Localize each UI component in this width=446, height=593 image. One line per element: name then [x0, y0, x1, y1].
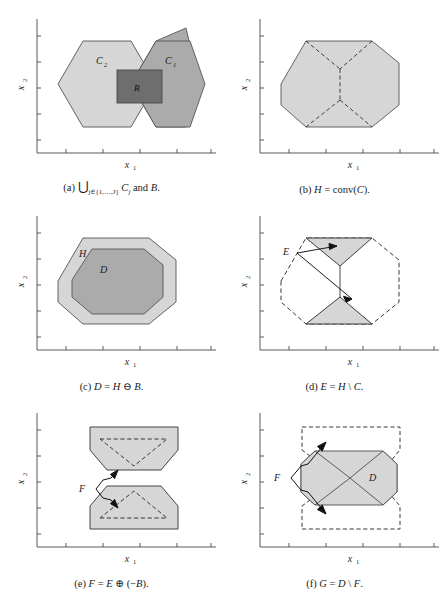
xlabel-d-sub: 1	[356, 361, 359, 367]
xlabel-a-sub: 1	[133, 164, 136, 170]
ylabel-c-sub: 2	[21, 276, 28, 279]
caption-a-conj: and	[133, 182, 148, 193]
panel-d-plot: E x 1 x 2	[223, 197, 446, 367]
caption-b-tag: (b)	[299, 184, 311, 195]
ylabel-b: x	[238, 85, 249, 91]
caption-b: (b) H = conv(C).	[223, 184, 446, 196]
panel-b: x 1 x 2 (b) H = conv(C).	[223, 0, 446, 198]
xlabel-f: x	[347, 553, 353, 564]
xlabel-d: x	[347, 356, 353, 367]
triangle-E-top	[306, 238, 372, 266]
ylabel-d-sub: 2	[244, 276, 251, 279]
caption-b-arg: C	[357, 184, 364, 195]
caption-f-tag: (f)	[306, 578, 317, 589]
ylabel-f: x	[238, 479, 249, 485]
caption-c-lhs: D	[94, 381, 102, 392]
ylabel-a-sub: 2	[21, 79, 28, 82]
caption-c: (c) D = H ⊖ B.	[0, 381, 223, 393]
label-F-f: F	[273, 472, 281, 483]
caption-a-period: .	[157, 182, 160, 193]
panel-f: F D x 1 x 2 (f) G = D \ F.	[223, 394, 446, 592]
caption-a-tag: (a)	[63, 182, 75, 193]
dilated-F-top	[90, 427, 178, 470]
xlabel-c-sub: 1	[133, 361, 136, 367]
square-B	[117, 70, 162, 103]
label-F-e: F	[78, 483, 86, 494]
panel-d: E x 1 x 2 (d) E = H \ C.	[223, 197, 446, 395]
xlabel-c: x	[124, 356, 130, 367]
ylabel-d: x	[238, 282, 249, 288]
caption-e-rhs1: E	[106, 578, 112, 589]
caption-f-eq: =	[329, 578, 335, 589]
caption-d-period: .	[361, 381, 364, 392]
caption-a-body-sub: j	[128, 188, 130, 195]
panel-c-plot: H D x 1 x 2	[0, 197, 223, 367]
xlabel-a: x	[124, 159, 130, 170]
caption-a-union-sub: j∈{1,…,J}	[89, 188, 119, 195]
caption-e-lhs: F	[89, 578, 95, 589]
caption-d-lhs: E	[320, 381, 326, 392]
panel-a: C 2 C 1 B x 1 x 2 (a) ⋃j∈{1,…,J} Cj and …	[0, 0, 223, 198]
xlabel-b: x	[347, 159, 353, 170]
caption-c-op: ⊖	[123, 381, 132, 392]
label-D-c: D	[99, 264, 108, 275]
caption-d-rhs1: H	[338, 381, 346, 392]
caption-d-eq: =	[329, 381, 335, 392]
caption-d-rhs2: C	[354, 381, 361, 392]
caption-e-open: (−	[127, 578, 136, 589]
caption-d-op: \	[348, 381, 351, 392]
panel-c: H D x 1 x 2 (c) D = H ⊖ B.	[0, 197, 223, 395]
xlabel-e-sub: 1	[133, 558, 136, 564]
xlabel-e: x	[124, 553, 130, 564]
label-H-c: H	[78, 248, 87, 259]
caption-a: (a) ⋃j∈{1,…,J} Cj and B.	[0, 180, 223, 196]
caption-e-op: ⊕	[115, 578, 124, 589]
xlabel-b-sub: 1	[356, 164, 359, 170]
ylabel-a: x	[15, 85, 26, 91]
panel-e-plot: F x 1 x 2	[0, 394, 223, 564]
triangle-E-bottom	[306, 297, 372, 324]
caption-b-lhs: H	[314, 184, 322, 195]
label-C2: C	[96, 55, 103, 66]
caption-f-lhs: G	[319, 578, 327, 589]
caption-c-eq: =	[104, 381, 110, 392]
caption-f-period: .	[360, 578, 363, 589]
ylabel-b-sub: 2	[244, 79, 251, 82]
label-C1: C	[165, 55, 172, 66]
caption-b-fn: conv(	[333, 184, 357, 195]
label-D-f: D	[368, 472, 377, 483]
caption-e-close: ).	[143, 578, 149, 589]
label-E-d: E	[282, 246, 289, 257]
figure-container: C 2 C 1 B x 1 x 2 (a) ⋃j∈{1,…,J} Cj and …	[0, 0, 446, 593]
caption-d-tag: (d)	[306, 381, 318, 392]
panel-b-plot: x 1 x 2	[223, 0, 446, 170]
ylabel-e-sub: 2	[21, 473, 28, 476]
caption-a-union-symbol: ⋃	[78, 179, 89, 194]
panel-e: F x 1 x 2 (e) F = E ⊕ (−B).	[0, 394, 223, 592]
caption-c-period: .	[141, 381, 144, 392]
ylabel-f-sub: 2	[244, 473, 251, 476]
caption-f: (f) G = D \ F.	[223, 578, 446, 590]
caption-c-tag: (c)	[80, 381, 92, 392]
caption-c-rhs1: H	[113, 381, 121, 392]
panel-f-plot: F D x 1 x 2	[223, 394, 446, 564]
label-C1-sub: 1	[173, 61, 176, 68]
caption-e-tag: (e)	[74, 578, 86, 589]
caption-e-eq: =	[98, 578, 104, 589]
ylabel-e: x	[15, 479, 26, 485]
caption-e: (e) F = E ⊕ (−B).	[0, 578, 223, 590]
xlabel-f-sub: 1	[356, 558, 359, 564]
caption-f-rhs1: D	[338, 578, 346, 589]
caption-b-eq: =	[324, 184, 330, 195]
dilated-F-bottom	[90, 486, 178, 529]
ylabel-c: x	[15, 282, 26, 288]
caption-f-op: \	[348, 578, 351, 589]
label-B: B	[134, 83, 140, 93]
axis-lines	[260, 216, 439, 350]
caption-b-close: ).	[364, 184, 370, 195]
caption-d: (d) E = H \ C.	[223, 381, 446, 393]
panel-a-plot: C 2 C 1 B x 1 x 2	[0, 0, 223, 170]
